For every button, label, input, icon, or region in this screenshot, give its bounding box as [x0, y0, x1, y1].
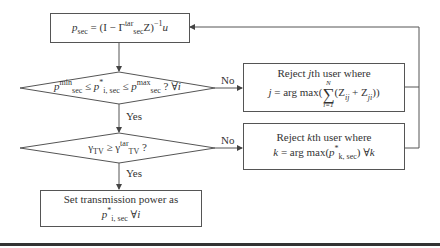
- tar-sup: tar: [120, 139, 128, 148]
- u-vector: u: [162, 21, 168, 33]
- i-sec-sub: i, sec: [103, 86, 119, 95]
- plus-z: + Z: [349, 87, 367, 99]
- i-sec-sub: i, sec: [111, 214, 127, 223]
- bottom-rule: [0, 243, 440, 246]
- set-power-line2: p*i, sec ∀i: [102, 206, 140, 224]
- argmax-text: = arg max(: [278, 146, 329, 158]
- th-user-where: th user where: [311, 67, 370, 79]
- leq-symbol: ≤: [120, 80, 132, 92]
- compute-power-box: psec = (I − ΓtarsecZ)−1u: [50, 13, 190, 43]
- reject-j-line2: j = arg max(N∑i=1(Zij + Zji)): [268, 80, 379, 108]
- sinr-yes-label: Yes: [126, 167, 142, 179]
- geq-symbol: ≥: [104, 141, 116, 153]
- sec-sub: sec: [78, 27, 88, 36]
- sec-sub2: sec: [133, 27, 143, 36]
- compute-formula: psec = (I − ΓtarsecZ)−1u: [72, 19, 168, 37]
- tv-sub: TV: [129, 147, 140, 156]
- reject-j-line1: Reject jth user where: [277, 67, 370, 81]
- forall-var: i: [178, 80, 181, 92]
- close-forall: ) ∀: [357, 146, 370, 158]
- sigma-symbol: ∑: [322, 87, 334, 102]
- argmax-text: = arg max(: [271, 87, 322, 99]
- reject-k-box: Reject kth user where k = arg max(p*k, s…: [243, 123, 405, 170]
- formula-rhs: = (I − Γ: [91, 21, 125, 33]
- sec-sub: sec: [151, 86, 161, 95]
- max-sup: max: [137, 78, 151, 87]
- sec-sub: sec: [72, 86, 82, 95]
- close-paren: )): [372, 87, 379, 99]
- question: ?: [139, 141, 147, 153]
- leq-symbol: ≤: [82, 80, 94, 92]
- k-sec-sub: k, sec: [339, 152, 357, 161]
- tv-sub: TV: [93, 147, 104, 156]
- summation: N∑i=1: [322, 80, 334, 108]
- reject-text: Reject: [277, 67, 308, 79]
- question-forall: ? ∀: [161, 80, 178, 92]
- min-sup: min: [60, 78, 72, 87]
- sinr-no-label: No: [221, 134, 234, 146]
- power-no-label: No: [221, 74, 234, 86]
- formula-z: Z): [144, 21, 154, 33]
- power-yes-label: Yes: [126, 110, 142, 122]
- reject-text: Reject: [276, 131, 307, 143]
- z-term: (Z: [335, 87, 345, 99]
- forall-var: k: [370, 146, 375, 158]
- reject-k-line1: Reject kth user where: [276, 131, 371, 145]
- power-constraint-text: pminsec ≤ p*i, sec ≤ pmaxsec ? ∀i: [20, 78, 215, 95]
- sinr-constraint-text: γTV ≥ γtarTV ?: [20, 139, 215, 156]
- reject-j-box: Reject jth user where j = arg max(N∑i=1(…: [243, 63, 405, 112]
- forall-var: i: [137, 208, 140, 220]
- sum-lower: i=1: [323, 102, 333, 108]
- set-power-line1: Set transmission power as: [64, 193, 179, 207]
- reject-k-line2: k = arg max(p*k, sec) ∀k: [273, 144, 374, 162]
- set-power-box: Set transmission power as p*i, sec ∀i: [40, 190, 202, 227]
- forall-symbol: ∀: [128, 208, 137, 220]
- th-user-where: th user where: [312, 131, 371, 143]
